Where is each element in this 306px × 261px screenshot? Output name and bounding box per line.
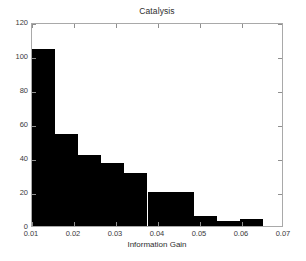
histogram-bar bbox=[55, 134, 78, 226]
x-tick-mark bbox=[32, 222, 33, 226]
y-tick-label: 60 bbox=[2, 121, 28, 129]
chart-title: Catalysis bbox=[31, 6, 283, 16]
x-tick-label: 0.03 bbox=[95, 229, 135, 238]
histogram-bar bbox=[148, 192, 171, 226]
histogram-bars bbox=[32, 24, 282, 226]
x-tick-mark bbox=[200, 222, 201, 226]
x-tick-mark bbox=[242, 24, 243, 28]
y-tick-mark bbox=[32, 92, 36, 93]
y-tick-mark bbox=[278, 58, 282, 59]
histogram-bar bbox=[78, 155, 101, 226]
x-tick-mark bbox=[74, 24, 75, 28]
histogram-bar bbox=[124, 173, 147, 226]
y-tick-mark bbox=[32, 126, 36, 127]
x-tick-mark bbox=[74, 222, 75, 226]
figure-canvas: Catalysis 020406080100120 0.010.020.030.… bbox=[0, 0, 306, 261]
x-tick-label: 0.02 bbox=[53, 229, 93, 238]
x-tick-label: 0.04 bbox=[137, 229, 177, 238]
x-tick-mark bbox=[242, 222, 243, 226]
x-tick-mark bbox=[32, 24, 33, 28]
y-tick-label: 40 bbox=[2, 155, 28, 163]
x-tick-mark bbox=[158, 24, 159, 28]
histogram-bar bbox=[32, 49, 55, 226]
y-tick-mark bbox=[32, 194, 36, 195]
histogram-bar bbox=[194, 216, 217, 226]
y-tick-mark bbox=[32, 160, 36, 161]
x-tick-label: 0.05 bbox=[179, 229, 219, 238]
y-tick-mark bbox=[278, 24, 282, 25]
y-tick-label: 120 bbox=[2, 19, 28, 27]
y-tick-label: 20 bbox=[2, 189, 28, 197]
x-tick-label: 0.01 bbox=[11, 229, 51, 238]
y-tick-label: 100 bbox=[2, 53, 28, 61]
plot-area bbox=[31, 23, 283, 227]
x-tick-mark bbox=[158, 222, 159, 226]
x-tick-label: 0.06 bbox=[221, 229, 261, 238]
y-tick-mark bbox=[278, 92, 282, 93]
x-tick-label: 0.07 bbox=[263, 229, 303, 238]
x-axis-title: Information Gain bbox=[31, 240, 283, 250]
histogram-bar bbox=[240, 219, 263, 226]
x-tick-mark bbox=[200, 24, 201, 28]
histogram-bar bbox=[101, 163, 124, 226]
y-tick-mark bbox=[278, 194, 282, 195]
y-tick-mark bbox=[278, 126, 282, 127]
y-tick-label: 80 bbox=[2, 87, 28, 95]
x-tick-mark bbox=[116, 222, 117, 226]
y-tick-mark bbox=[278, 160, 282, 161]
x-tick-mark bbox=[116, 24, 117, 28]
y-tick-mark bbox=[32, 58, 36, 59]
histogram-bar bbox=[171, 192, 194, 226]
histogram-bar bbox=[217, 221, 240, 226]
y-axis-tick-labels: 020406080100120 bbox=[0, 23, 28, 227]
